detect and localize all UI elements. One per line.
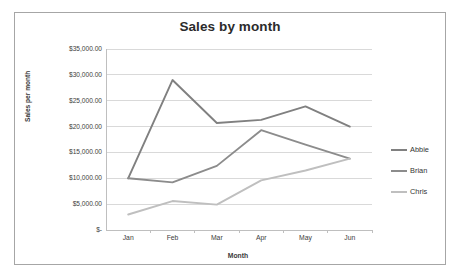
y-axis-tick-label: $5,000.00 <box>36 200 102 207</box>
x-axis-tick-label-apr: Apr <box>236 234 286 241</box>
legend-label: Brian <box>410 166 427 175</box>
legend-item-chris[interactable]: Chris <box>391 181 445 202</box>
y-axis-tick-label: $25,000.00 <box>36 97 102 104</box>
x-axis-tick-label-may: May <box>281 234 331 241</box>
y-axis-title: Sales per month <box>21 109 34 122</box>
y-axis-tick-label: $20,000.00 <box>36 123 102 130</box>
x-axis-title: Month <box>105 252 371 259</box>
x-axis-tick-label-jun: Jun <box>325 234 375 241</box>
chart-frame: Sales by month Sales per month $35,000.0… <box>14 12 446 265</box>
plot-area <box>106 49 372 230</box>
y-axis-tick-label: $15,000.00 <box>36 148 102 155</box>
legend-line-swatch-icon <box>391 191 407 193</box>
legend-line-swatch-icon <box>391 149 407 151</box>
x-axis-tick-label-mar: Mar <box>192 234 242 241</box>
y-axis-tick-label: $- <box>36 226 102 233</box>
legend-label: Chris <box>410 187 427 196</box>
y-axis-tick-label: $30,000.00 <box>36 71 102 78</box>
x-axis-tick-label-jan: Jan <box>103 234 153 241</box>
legend-item-brian[interactable]: Brian <box>391 160 445 181</box>
chart-legend: AbbieBrianChris <box>391 139 445 202</box>
legend-label: Abbie <box>410 145 429 154</box>
x-axis-tick-label-feb: Feb <box>148 234 198 241</box>
y-axis-tick-label: $10,000.00 <box>36 174 102 181</box>
chart-title: Sales by month <box>15 19 445 34</box>
series-lines <box>106 49 372 230</box>
y-axis-tick-label: $35,000.00 <box>36 45 102 52</box>
legend-item-abbie[interactable]: Abbie <box>391 139 445 160</box>
y-axis-tick-labels: $35,000.00$30,000.00$25,000.00$20,000.00… <box>34 49 102 230</box>
legend-line-swatch-icon <box>391 170 407 172</box>
x-axis-tick-labels: JanFebMarAprMayJun <box>106 234 372 248</box>
